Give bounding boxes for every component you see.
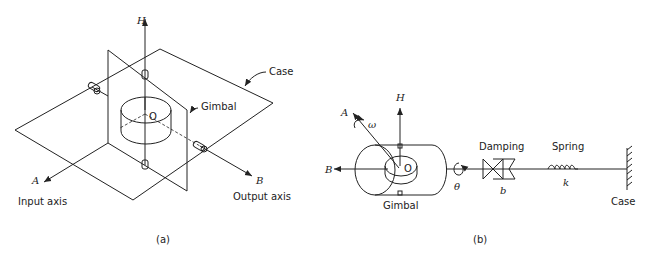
caption-a: (a) — [156, 234, 170, 245]
gimbal-cylinder — [355, 145, 447, 195]
label-gimbal-a: Gimbal — [201, 101, 237, 112]
label-spring: Spring — [552, 141, 584, 152]
label-spring-const: k — [563, 177, 569, 188]
label-theta: θ — [454, 181, 460, 192]
case-wall — [627, 146, 632, 190]
rotor-cylinder — [121, 97, 171, 144]
label-damping-coeff: b — [500, 185, 506, 196]
label-gimbal-b: Gimbal — [383, 200, 419, 211]
label-case-a: Case — [269, 66, 293, 77]
rotor-disk — [385, 156, 417, 184]
label-origin-a: O — [149, 111, 157, 122]
caption-b: (b) — [473, 234, 487, 245]
spring — [546, 165, 580, 169]
gimbal-leader — [190, 108, 198, 113]
figure-b: H A ω O B Gimbal θ Damping b Spring k Ca… — [324, 92, 635, 245]
label-h-b: H — [395, 92, 405, 103]
label-omega: ω — [368, 119, 376, 130]
label-b-a: B — [255, 175, 263, 186]
label-b-b: B — [324, 164, 332, 175]
label-a-b: A — [340, 107, 348, 118]
a-axis-a — [44, 143, 108, 182]
label-damping: Damping — [479, 141, 524, 152]
b-axis-a — [200, 146, 252, 176]
label-h-a: H — [136, 15, 146, 26]
label-input-axis: Input axis — [18, 196, 67, 207]
label-a-a: A — [31, 175, 39, 186]
label-output-axis: Output axis — [233, 191, 291, 202]
figure-a: H Case Gimbal O A B Input axis Output ax… — [15, 15, 293, 245]
case-plane — [15, 49, 273, 200]
gyroscope-diagram: H Case Gimbal O A B Input axis Output ax… — [0, 0, 647, 256]
label-origin-b: O — [404, 163, 412, 174]
case-leader — [245, 72, 266, 86]
label-case-b: Case — [611, 196, 635, 207]
